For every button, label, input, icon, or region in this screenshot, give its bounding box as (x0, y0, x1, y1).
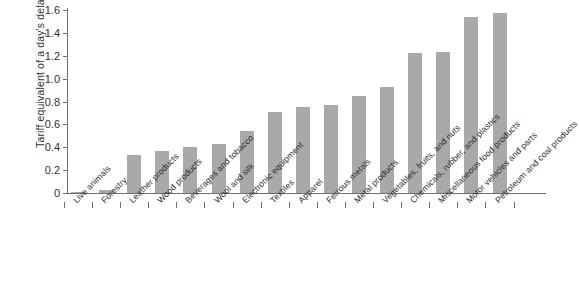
x-axis-tick-mark (233, 202, 234, 208)
y-axis-tick-mark (63, 193, 68, 194)
x-axis-tick-mark (485, 202, 486, 208)
x-axis-tick-mark (429, 202, 430, 208)
x-axis-tick-mark (261, 202, 262, 208)
y-axis-tick-mark (63, 124, 68, 125)
y-axis-tick-label: 0.8 (45, 96, 60, 108)
x-axis-tick-mark (176, 202, 177, 208)
x-axis-tick-mark (204, 202, 205, 208)
x-axis-tick-mark (401, 202, 402, 208)
y-axis-tick-mark (63, 56, 68, 57)
y-axis-tick-mark (63, 10, 68, 11)
x-axis-tick-mark (148, 202, 149, 208)
y-axis-tick-label: 0.2 (45, 164, 60, 176)
y-axis-tick-label: 1.6 (45, 4, 60, 16)
x-axis-tick-mark (514, 202, 515, 208)
x-axis-tick-mark (457, 202, 458, 208)
y-axis-tick-mark (63, 102, 68, 103)
y-axis-tick-mark (63, 79, 68, 80)
x-axis-tick-mark (373, 202, 374, 208)
y-axis-tick-label: 1.0 (45, 73, 60, 85)
x-axis-tick-mark (120, 202, 121, 208)
x-axis-tick-mark (345, 202, 346, 208)
y-axis-tick-label: 0.6 (45, 118, 60, 130)
y-axis-tick-mark (63, 33, 68, 34)
y-axis-tick-label: 1.4 (45, 27, 60, 39)
y-axis-tick-mark (63, 170, 68, 171)
y-axis-tick-mark (63, 147, 68, 148)
y-axis-tick-label: 1.2 (45, 50, 60, 62)
x-axis-tick-mark (92, 202, 93, 208)
bar (324, 105, 338, 193)
y-axis-tick-label: 0.4 (45, 141, 60, 153)
y-axis-tick-label: 0 (54, 187, 60, 199)
x-axis-tick-mark (289, 202, 290, 208)
x-axis-tick-mark (317, 202, 318, 208)
x-axis-tick-mark (64, 202, 65, 208)
